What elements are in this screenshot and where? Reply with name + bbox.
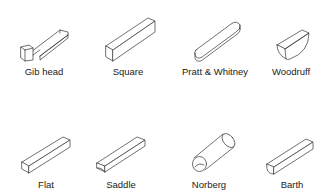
key-types-diagram: Gib head Square Pratt & Whitney Woodruff…: [0, 0, 326, 192]
label-norberg: Norberg: [192, 180, 226, 190]
label-woodruff: Woodruff: [272, 67, 310, 77]
barth-key-icon: [267, 139, 313, 174]
label-barth: Barth: [281, 180, 304, 190]
label-pratt-whitney: Pratt & Whitney: [182, 67, 248, 77]
label-flat: Flat: [38, 180, 54, 190]
label-square: Square: [113, 67, 144, 77]
flat-key-icon: [22, 137, 70, 173]
woodruff-key-icon: [277, 30, 309, 60]
saddle-key-icon: [97, 137, 145, 172]
key-shapes-drawing: [0, 0, 326, 192]
label-gib-head: Gib head: [25, 67, 64, 77]
norberg-key-icon: [193, 131, 238, 171]
gib-head-key-icon: [21, 30, 68, 61]
label-saddle: Saddle: [106, 180, 136, 190]
pratt-whitney-key-icon: [195, 22, 241, 61]
square-key-icon: [106, 18, 155, 61]
